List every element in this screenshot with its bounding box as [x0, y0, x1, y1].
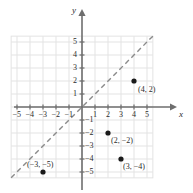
y-tick-label--3: −3 — [85, 142, 94, 150]
coordinate-plane-figure: −5−4−3−2−11234554321−1−2−3−4−5xy(4, 2)(2… — [0, 0, 193, 193]
y-tick-label--5: −5 — [85, 168, 94, 176]
point-label: (3, −4) — [123, 163, 145, 171]
y-tick-label--4: −4 — [85, 155, 94, 163]
point-label: (2, −2) — [111, 137, 133, 145]
x-tick-label--5: −5 — [13, 111, 22, 119]
y-tick-label-2: 2 — [73, 77, 77, 85]
point-label: (−3, −5) — [27, 161, 53, 169]
x-tick-label--2: −2 — [52, 111, 61, 119]
data-point — [118, 156, 123, 161]
y-tick-label-5: 5 — [73, 38, 77, 46]
x-tick-label--1: −1 — [65, 111, 74, 119]
y-tick-label--1: −1 — [85, 116, 94, 124]
x-axis-label: x — [179, 110, 183, 119]
x-tick-label-3: 3 — [119, 111, 123, 119]
y-tick-label--2: −2 — [85, 129, 94, 137]
x-tick-label-1: 1 — [93, 111, 97, 119]
x-tick-label-2: 2 — [106, 111, 110, 119]
x-tick-label-4: 4 — [132, 111, 136, 119]
data-point — [40, 169, 45, 174]
y-axis-label: y — [72, 6, 76, 15]
x-axis-arrowhead — [170, 103, 177, 110]
y-axis-arrowhead — [78, 9, 85, 16]
x-tick-label--3: −3 — [39, 111, 48, 119]
y-tick-label-3: 3 — [73, 64, 77, 72]
x-tick-label--4: −4 — [26, 111, 35, 119]
x-tick-label-5: 5 — [145, 111, 149, 119]
y-tick-label-4: 4 — [73, 51, 77, 59]
data-point — [105, 130, 110, 135]
data-point — [131, 78, 136, 83]
point-label: (4, 2) — [138, 86, 155, 94]
y-tick-label-1: 1 — [73, 90, 77, 98]
